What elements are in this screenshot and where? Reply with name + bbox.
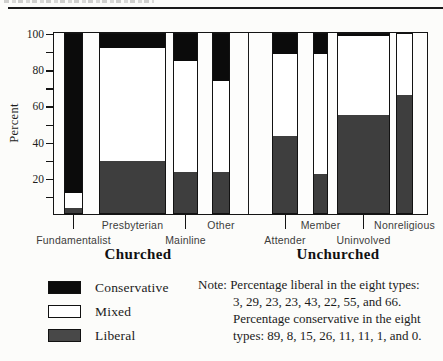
conservative-segment: [100, 34, 165, 48]
bar-fundamentalist: [64, 33, 83, 214]
liberal-segment: [174, 172, 197, 213]
conservative-segment: [314, 34, 327, 54]
bar-attender: [272, 33, 298, 214]
conservative-segment: [273, 34, 297, 54]
group-label-churched: Churched: [104, 246, 171, 263]
y-axis-title: Percent: [7, 83, 21, 163]
note-line: Percentage conservative in the eight: [233, 310, 443, 327]
y-tick-label: 80: [0, 63, 44, 77]
cropped-text-remnant: [4, 0, 154, 3]
conservative-swatch: [48, 281, 81, 294]
legend-label: Conservative: [95, 280, 169, 296]
conservative-segment: [174, 34, 197, 61]
y-tick-label: 20: [0, 172, 44, 186]
category-label-attender: Attender: [264, 234, 305, 246]
bar-mainline: [173, 33, 198, 214]
category-label-uninvolved: Uninvolved: [337, 234, 391, 246]
conservative-segment: [213, 34, 229, 81]
bar-member: [313, 33, 328, 214]
figure-page: Percent 20406080100 FundamentalistPresby…: [0, 0, 443, 361]
group-label-unchurched: Unchurched: [297, 246, 380, 263]
category-tick: [363, 215, 364, 229]
y-tick-label: 100: [0, 27, 44, 41]
category-label-nonreligious: Nonreligious: [374, 219, 435, 231]
category-label-mainline: Mainline: [165, 234, 206, 246]
note-line: Note: Percentage liberal in the eight ty…: [233, 276, 443, 293]
note-line: types: 89, 8, 15, 26, 11, 11, 1, and 0.: [233, 327, 443, 344]
conservative-segment: [338, 34, 389, 36]
legend-label: Liberal: [95, 328, 135, 344]
bar-uninvolved: [337, 33, 390, 214]
liberal-segment: [314, 174, 327, 213]
category-tick: [285, 215, 286, 229]
note-text: Note: Percentage liberal in the eight ty…: [198, 276, 443, 344]
conservative-segment: [65, 34, 82, 193]
liberal-segment: [338, 115, 389, 213]
note-line: 3, 29, 23, 23, 43, 22, 55, and 66.: [233, 293, 443, 310]
category-label-presbyterian: Presbyterian: [102, 219, 163, 231]
top-rule: [8, 7, 443, 9]
plot-area: [53, 32, 428, 215]
liberal-swatch: [48, 329, 81, 342]
group-divider-line: [248, 33, 249, 214]
liberal-segment: [65, 208, 82, 213]
category-label-member: Member: [301, 219, 341, 231]
category-tick: [73, 215, 74, 229]
legend-label: Mixed: [95, 304, 131, 320]
liberal-segment: [273, 136, 297, 213]
category-tick: [185, 215, 186, 229]
liberal-segment: [213, 172, 229, 213]
category-label-fundamentalist: Fundamentalist: [36, 234, 111, 246]
bar-presbyterian: [99, 33, 166, 214]
liberal-segment: [397, 95, 412, 213]
bar-nonreligious: [396, 33, 413, 214]
mixed-swatch: [48, 305, 81, 318]
liberal-segment: [100, 161, 165, 213]
bar-other: [212, 33, 230, 214]
category-label-other: Other: [207, 219, 234, 231]
